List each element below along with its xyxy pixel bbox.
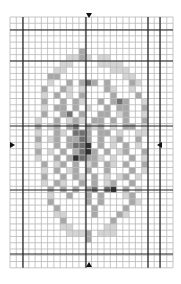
stitch-cell (41, 92, 47, 98)
stitch-cell (79, 142, 85, 148)
stitch-cell (123, 73, 129, 79)
stitch-cell (41, 167, 47, 173)
stitch-cell (123, 142, 129, 148)
stitch-cell (104, 86, 110, 92)
stitch-cell (79, 99, 85, 105)
stitch-cell (123, 161, 129, 167)
stitch-cell (123, 105, 129, 111)
stitch-cell (104, 224, 110, 230)
stitch-cell (60, 99, 66, 105)
stitch-cell (104, 161, 110, 167)
stitch-cell (73, 124, 79, 130)
stitch-cell (66, 111, 72, 117)
stitch-cell (35, 136, 41, 142)
stitch-cell (117, 99, 123, 105)
stitch-cell (110, 136, 116, 142)
stitch-cell (142, 149, 148, 155)
stitch-cell (135, 199, 141, 205)
stitch-cell (60, 61, 66, 67)
stitch-cell (104, 111, 110, 117)
stitch-cell (142, 167, 148, 173)
stitch-cell (66, 92, 72, 98)
stitch-cell (98, 136, 104, 142)
stitch-cell (35, 124, 41, 130)
stitch-cell (110, 224, 116, 230)
stitch-cell (41, 86, 47, 92)
stitch-cell (92, 161, 98, 167)
stitch-cell (142, 111, 148, 117)
stitch-cell (54, 161, 60, 167)
stitch-cell (98, 55, 104, 61)
stitch-cell (92, 124, 98, 130)
stitch-cell (110, 67, 116, 73)
stitch-cell (123, 124, 129, 130)
stitch-cell (92, 205, 98, 211)
stitch-cell (92, 174, 98, 180)
stitch-cell (98, 193, 104, 199)
stitch-cell (41, 99, 47, 105)
stitch-cell (98, 117, 104, 123)
stitch-cell (123, 117, 129, 123)
stitch-cell (104, 80, 110, 86)
stitch-cell (54, 105, 60, 111)
stitch-cell (73, 155, 79, 161)
stitch-cell (135, 80, 141, 86)
stitch-cell (110, 180, 116, 186)
stitch-cell (48, 199, 54, 205)
center-marker-bottom-icon (86, 262, 92, 267)
stitch-cell (60, 67, 66, 73)
stitch-cell (98, 230, 104, 236)
stitch-cell (104, 149, 110, 155)
stitch-cell (123, 149, 129, 155)
stitch-cell (135, 92, 141, 98)
stitch-cell (60, 224, 66, 230)
stitch-cell (79, 180, 85, 186)
stitch-cell (104, 55, 110, 61)
stitch-cell (66, 142, 72, 148)
stitch-cell (117, 67, 123, 73)
stitch-cell (92, 155, 98, 161)
stitch-cell (104, 174, 110, 180)
stitch-cell (117, 61, 123, 67)
stitch-cell (66, 136, 72, 142)
pattern-chart (0, 0, 181, 284)
stitch-cell (104, 105, 110, 111)
stitch-cell (117, 174, 123, 180)
stitch-cell (60, 211, 66, 217)
stitch-cell (54, 67, 60, 73)
stitch-cell (54, 167, 60, 173)
stitch-cell (79, 136, 85, 142)
stitch-cell (129, 155, 135, 161)
stitch-cell (79, 86, 85, 92)
stitch-cell (73, 149, 79, 155)
stitch-cell (35, 149, 41, 155)
stitch-cell (110, 155, 116, 161)
stitch-cell (104, 130, 110, 136)
stitch-cell (73, 136, 79, 142)
stitch-cell (35, 142, 41, 148)
stitch-cell (110, 117, 116, 123)
stitch-cell (60, 86, 66, 92)
stitch-cell (110, 218, 116, 224)
stitch-cell (98, 124, 104, 130)
stitch-cell (92, 149, 98, 155)
stitch-cell (73, 230, 79, 236)
stitch-cell (54, 130, 60, 136)
stitch-cell (79, 149, 85, 155)
stitch-cell (123, 205, 129, 211)
stitch-cell (129, 73, 135, 79)
stitch-cell (104, 167, 110, 173)
stitch-cell (79, 92, 85, 98)
stitch-cell (98, 199, 104, 205)
stitch-cell (48, 73, 54, 79)
stitch-cell (66, 80, 72, 86)
stitch-cell (66, 155, 72, 161)
stitch-cell (135, 174, 141, 180)
stitch-cell (60, 218, 66, 224)
stitch-cell (92, 211, 98, 217)
stitch-cell (66, 230, 72, 236)
stitch-cell (73, 99, 79, 105)
stitch-cell (129, 86, 135, 92)
stitch-cell (54, 117, 60, 123)
center-marker-right-icon (157, 142, 162, 148)
